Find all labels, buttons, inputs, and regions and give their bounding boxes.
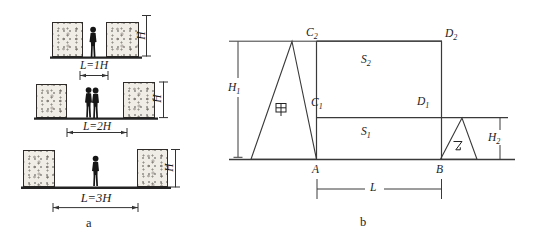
label-sub: 2 <box>367 59 371 68</box>
daylight-spacing-figure: L=1H L=2H L=3H H H H a C2 D2 S2 C1 D1 S1… <box>0 0 535 240</box>
l-dimension-line <box>317 179 442 199</box>
jia-building-label-glyph <box>276 104 286 117</box>
point-label-c1: C1 <box>311 96 323 111</box>
point-label-d1: D1 <box>417 95 429 110</box>
height-label-row3: H <box>163 161 176 174</box>
height-label-row2: H <box>151 92 164 105</box>
label-sub: 1 <box>367 131 371 140</box>
point-label-b: B <box>436 163 443 176</box>
yi-building-label-glyph <box>454 142 463 150</box>
label-text: C <box>311 96 319 108</box>
dim-label-h2: H2 <box>488 131 500 146</box>
spacing-label-row2: L=2H <box>77 120 117 133</box>
caption-a: a <box>86 216 92 231</box>
spacing-dimension-row1 <box>80 71 108 80</box>
spacing-label-row3: L=3H <box>74 192 118 205</box>
point-label-d2: D2 <box>445 27 457 42</box>
person-icon <box>90 27 97 57</box>
label-sub: 2 <box>314 32 318 41</box>
area-label-s1: S1 <box>361 125 371 140</box>
label-sub: 2 <box>496 137 500 146</box>
h1-dimension-line <box>234 42 243 158</box>
person-icon <box>85 87 92 117</box>
area-label-s2: S2 <box>361 53 371 68</box>
point-label-c2: C2 <box>306 26 318 41</box>
label-sub: 1 <box>425 101 429 110</box>
dim-label-h1: H1 <box>228 81 240 96</box>
dim-label-l: L <box>370 181 376 194</box>
label-sub: 1 <box>319 102 323 111</box>
label-sub: 1 <box>236 87 240 96</box>
person-icon <box>92 88 99 118</box>
label-sub: 2 <box>453 33 457 42</box>
caption-b: b <box>360 215 366 230</box>
point-label-a: A <box>312 163 319 176</box>
person-icon <box>92 156 99 186</box>
section-diagram <box>229 41 515 199</box>
spacing-label-row1: L=1H <box>74 59 114 72</box>
front-building-triangle <box>251 42 317 160</box>
height-label-row1: H <box>135 29 148 42</box>
rear-building-triangle <box>441 118 478 159</box>
label-text: C <box>306 26 314 38</box>
